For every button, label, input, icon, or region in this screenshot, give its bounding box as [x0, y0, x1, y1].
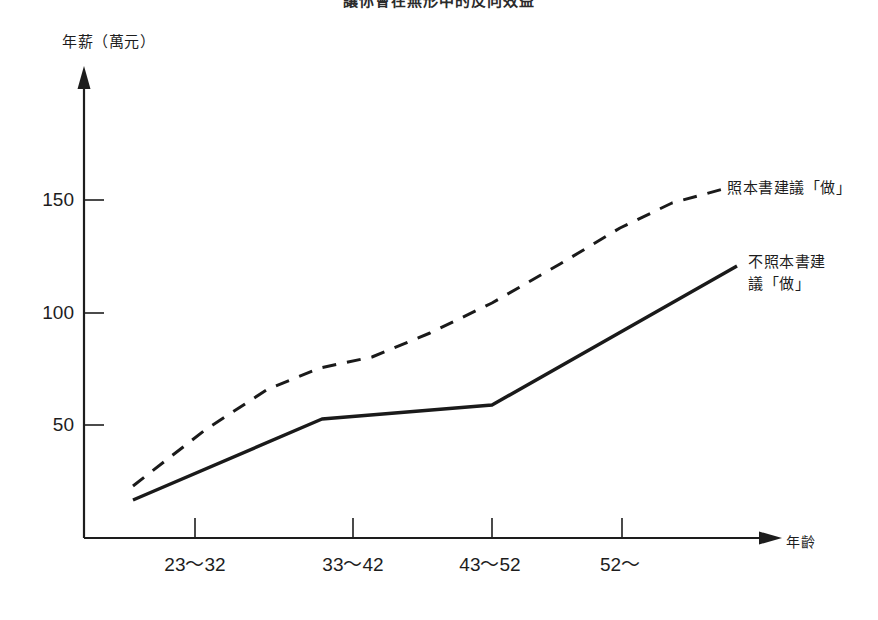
y-axis-title: 年薪（萬元） — [62, 30, 155, 51]
series-label-not-follow-book-line1: 不照本書建 — [748, 253, 826, 271]
series-label-not-follow-book-line2: 議「做」 — [748, 274, 826, 296]
x-tick-label-23-32: 23〜32 — [125, 549, 265, 576]
y-tick-label-100: 100 — [14, 302, 74, 324]
y-axis-arrow-icon — [78, 66, 91, 89]
x-axis-title: 年齡 — [786, 531, 815, 551]
series-line-not-follow-book — [133, 266, 737, 500]
page-running-title: 讓你會在無形中的反向效益 — [0, 0, 878, 9]
x-axis — [84, 532, 782, 545]
series-label-not-follow-book: 不照本書建 議「做」 — [748, 252, 826, 296]
y-tick-label-150: 150 — [14, 189, 74, 211]
x-tick-label-43-52: 43〜52 — [420, 549, 560, 576]
chart-figure: 讓你會在無形中的反向效益 年薪（萬元） 年齡 150 100 50 23〜32 … — [0, 0, 878, 620]
x-tick-label-33-42: 33〜42 — [283, 549, 423, 576]
x-tick-marks — [195, 518, 622, 538]
y-tick-marks — [84, 200, 104, 425]
page-title: 讓你會在無形中的反向效益 — [0, 0, 878, 9]
x-tick-label-52-plus: 52〜 — [550, 549, 690, 576]
plot-canvas — [0, 0, 878, 620]
series-line-follow-book — [133, 188, 727, 486]
y-tick-label-50: 50 — [14, 414, 74, 436]
y-axis — [78, 66, 91, 538]
x-axis-arrow-icon — [759, 532, 782, 545]
series-label-follow-book: 照本書建議「做」 — [727, 178, 851, 200]
